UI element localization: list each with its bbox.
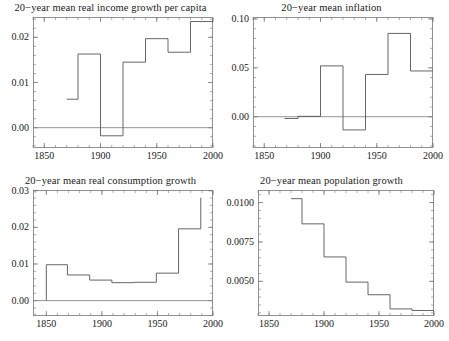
xtick-label: 1850: [24, 151, 64, 161]
xtick-label: 1900: [301, 151, 341, 161]
xtick-label: 1850: [244, 151, 284, 161]
xtick-label: 1900: [81, 151, 121, 161]
xtick-label: 1950: [137, 151, 177, 161]
panel-title-population: 20−year mean population growth: [221, 175, 442, 186]
xtick-label: 1950: [357, 151, 397, 161]
ytick-label: 0.03: [0, 186, 29, 196]
plot-area-income: [33, 17, 213, 148]
step-series: [285, 33, 434, 129]
panel-population: 20−year mean population growth 185019001…: [221, 173, 442, 341]
step-series: [67, 22, 213, 136]
ytick-label: 0.02: [0, 32, 29, 42]
xtick-label: 1900: [82, 319, 122, 329]
panel-inflation: 20−year mean inflation 18501900195020000…: [221, 0, 442, 173]
panel-consumption: 20−year mean real consumption growth 185…: [0, 173, 221, 341]
xtick-label: 1850: [26, 319, 66, 329]
ytick-label: 0.10: [207, 14, 249, 24]
xtick-label: 1850: [249, 319, 289, 329]
ytick-label: 0.05: [207, 63, 249, 73]
ytick-label: 0.0100: [212, 198, 254, 208]
plot-area-population: [258, 190, 434, 316]
plot-frame: [259, 191, 434, 316]
chart-svg-inflation: [253, 17, 433, 148]
xtick-label: 1900: [304, 319, 344, 329]
ytick-label: 0.0050: [212, 276, 254, 286]
ytick-label: 0.00: [207, 112, 249, 122]
chart-svg-population: [258, 190, 434, 316]
chart-svg-consumption: [33, 190, 213, 316]
panel-income: 20−year mean real income growth per capi…: [0, 0, 221, 173]
xtick-label: 2000: [414, 319, 449, 329]
step-series: [46, 198, 200, 283]
xtick-label: 1950: [359, 319, 399, 329]
chart-svg-income: [33, 17, 213, 148]
xtick-label: 2000: [413, 151, 449, 161]
panel-title-inflation: 20−year mean inflation: [221, 2, 442, 13]
xtick-label: 1950: [137, 319, 177, 329]
ytick-label: 0.00: [0, 296, 29, 306]
ytick-label: 0.0075: [212, 237, 254, 247]
ytick-label: 0.01: [0, 78, 29, 88]
panel-title-income: 20−year mean real income growth per capi…: [0, 2, 221, 13]
plot-area-inflation: [253, 17, 433, 148]
plot-frame: [34, 191, 213, 316]
ytick-label: 0.01: [0, 259, 29, 269]
panel-title-consumption: 20−year mean real consumption growth: [0, 175, 221, 186]
ytick-label: 0.02: [0, 222, 29, 232]
step-series: [291, 199, 434, 311]
plot-area-consumption: [33, 190, 213, 316]
ytick-label: 0.00: [0, 123, 29, 133]
